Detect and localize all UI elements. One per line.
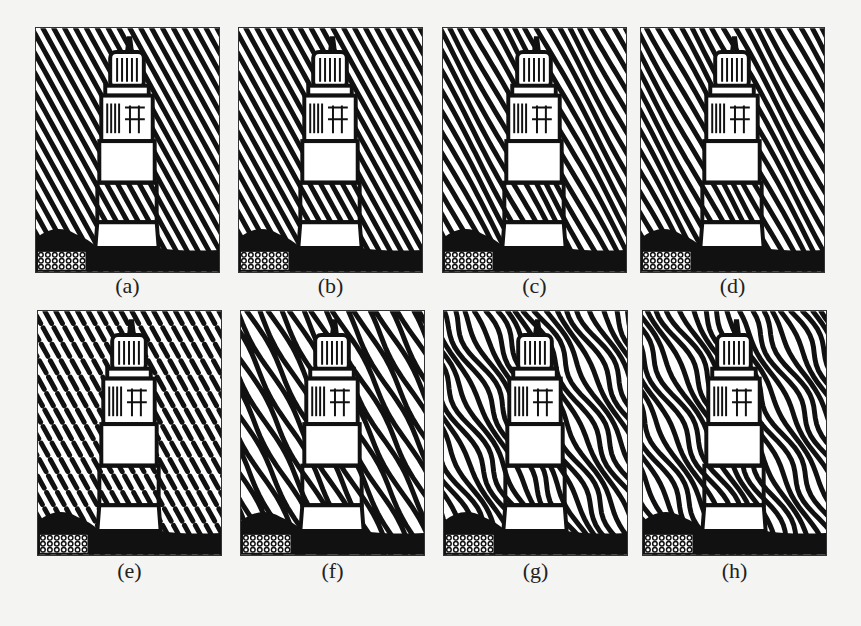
- lighthouse-image: [643, 311, 826, 555]
- panel-g: [443, 310, 628, 556]
- caption-g: (g): [443, 558, 628, 584]
- lighthouse-image: [241, 311, 424, 555]
- figure-page: { "figure": { "subject": "lighthouse ren…: [0, 0, 861, 626]
- lighthouse-image: [38, 311, 221, 555]
- caption-e: (e): [37, 558, 222, 584]
- lighthouse-image: [36, 28, 219, 272]
- lighthouse-tower: [300, 319, 363, 531]
- panel-h: [642, 310, 827, 556]
- caption-c: (c): [442, 273, 627, 299]
- panel-a: [35, 27, 220, 273]
- lighthouse-image: [239, 28, 422, 272]
- panel-b: [238, 27, 423, 273]
- panel-d: [640, 27, 825, 273]
- caption-f: (f): [240, 558, 425, 584]
- lighthouse-image: [641, 28, 824, 272]
- panel-f: [240, 310, 425, 556]
- panel-e: [37, 310, 222, 556]
- caption-h: (h): [642, 558, 827, 584]
- lighthouse-image: [444, 311, 627, 555]
- panel-c: [442, 27, 627, 273]
- lighthouse-image: [443, 28, 626, 272]
- caption-a: (a): [35, 273, 220, 299]
- caption-d: (d): [640, 273, 825, 299]
- caption-b: (b): [238, 273, 423, 299]
